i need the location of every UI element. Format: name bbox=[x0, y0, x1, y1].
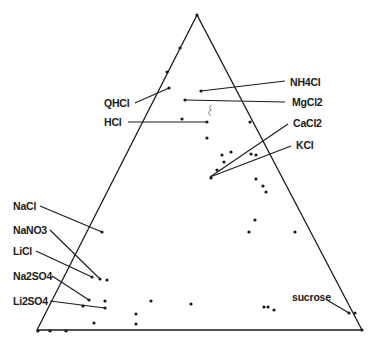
data-point bbox=[167, 86, 170, 89]
data-point bbox=[247, 230, 250, 233]
data-point bbox=[64, 329, 67, 332]
data-point bbox=[254, 177, 257, 180]
data-point bbox=[253, 218, 256, 221]
data-point bbox=[189, 302, 192, 305]
data-point bbox=[48, 329, 51, 332]
data-point bbox=[98, 277, 101, 280]
label-cacl2: CaCl2 bbox=[293, 118, 322, 129]
label-nh4cl: NH4Cl bbox=[290, 77, 321, 88]
label-na2so4: Na2SO4 bbox=[13, 271, 52, 282]
data-point bbox=[183, 98, 186, 101]
data-point bbox=[100, 230, 103, 233]
data-point bbox=[360, 328, 363, 331]
data-point bbox=[134, 312, 137, 315]
data-point bbox=[195, 13, 198, 16]
data-point bbox=[103, 306, 106, 309]
label-nano3: NaNO3 bbox=[13, 225, 47, 236]
leader-line-nano3 bbox=[50, 230, 100, 279]
data-point bbox=[36, 329, 39, 332]
data-point bbox=[134, 322, 137, 325]
leader-line-mgcl2 bbox=[185, 100, 285, 102]
data-point bbox=[261, 184, 264, 187]
label-qhcl: QHCl bbox=[104, 98, 129, 109]
data-point bbox=[81, 304, 84, 307]
data-point bbox=[103, 299, 106, 302]
leader-line-qhcl bbox=[135, 88, 169, 103]
ternary-diagram: 〈〈 bbox=[0, 0, 374, 339]
data-point bbox=[90, 275, 93, 278]
data-point bbox=[249, 152, 252, 155]
label-licl: LiCl bbox=[13, 246, 32, 257]
data-point bbox=[347, 311, 350, 314]
leader-line-li2so4 bbox=[50, 301, 105, 308]
data-point bbox=[199, 89, 202, 92]
data-point bbox=[293, 230, 296, 233]
label-sucrose: sucrose bbox=[292, 292, 331, 303]
data-point bbox=[149, 299, 152, 302]
label-mgcl2: MgCl2 bbox=[292, 97, 323, 108]
data-point bbox=[220, 153, 223, 156]
data-point bbox=[262, 305, 265, 308]
data-point bbox=[209, 176, 212, 179]
data-point bbox=[254, 153, 257, 156]
leader-line-na2so4 bbox=[52, 276, 89, 300]
data-point bbox=[87, 298, 90, 301]
data-point bbox=[215, 168, 218, 171]
data-point bbox=[272, 308, 275, 311]
label-li2so4: Li2SO4 bbox=[13, 296, 48, 307]
label-nacl: NaCl bbox=[13, 201, 36, 212]
data-point bbox=[266, 305, 269, 308]
data-point bbox=[205, 136, 208, 139]
triangle-outline bbox=[37, 15, 362, 330]
data-point bbox=[205, 120, 208, 123]
data-point bbox=[178, 46, 181, 49]
data-point bbox=[180, 117, 183, 120]
data-point bbox=[353, 311, 356, 314]
label-hcl: HCl bbox=[104, 117, 121, 128]
curl-mark: 〈 bbox=[204, 109, 211, 117]
data-point bbox=[264, 190, 267, 193]
data-point bbox=[248, 120, 251, 123]
data-point bbox=[229, 150, 232, 153]
label-kcl: KCl bbox=[296, 140, 313, 151]
data-points: 〈〈 bbox=[36, 13, 363, 332]
data-point bbox=[222, 160, 225, 163]
leader-line-cacl2 bbox=[210, 124, 288, 177]
data-point bbox=[165, 70, 168, 73]
data-point bbox=[105, 278, 108, 281]
label-leader-lines bbox=[36, 81, 349, 313]
leader-line-nh4cl bbox=[201, 81, 285, 91]
data-point bbox=[92, 321, 95, 324]
ternary-triangle bbox=[37, 15, 362, 330]
